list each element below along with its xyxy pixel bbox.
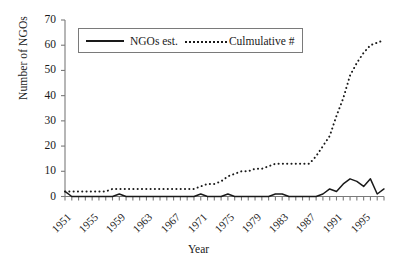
legend-line-solid-icon: [86, 40, 124, 42]
series-line-ngos-est: [65, 179, 384, 197]
series-line-culmulative: [65, 40, 384, 191]
legend-label-cumulative: Culmulative #: [229, 35, 294, 47]
chart-legend: NGOs est. Culmulative #: [78, 28, 303, 53]
chart-figure: Number of NGOs Year 010203040506070 1951…: [0, 0, 397, 266]
legend-label-ngos-est: NGOs est.: [130, 35, 178, 47]
legend-line-dotted-icon: [185, 41, 227, 43]
